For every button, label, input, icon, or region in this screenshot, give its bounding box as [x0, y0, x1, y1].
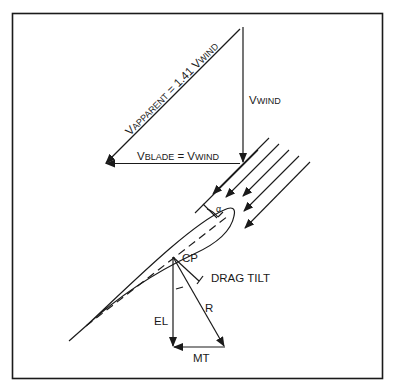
drag-tilt-label: DRAG TILT [211, 272, 270, 284]
v-wind-label: VWIND [249, 94, 281, 106]
v-apparent-label: VAPPARENT = 1.41 VWIND [123, 40, 221, 138]
force-vectors [173, 257, 225, 347]
cp-label: CP [182, 252, 198, 264]
velocity-triangle [106, 27, 243, 164]
v-blade-label: VBLADE = VWIND [137, 150, 219, 162]
mt-label: MT [193, 352, 210, 364]
v-apparent-arrow [106, 29, 240, 163]
trailing-edge-extension [69, 326, 86, 341]
el-label: EL [154, 315, 169, 327]
diagram-canvas: VAPPARENT = 1.41 VWIND VWIND VBLADE = VW… [0, 0, 394, 388]
svg-text:VAPPARENT = 1.41 VWIND: VAPPARENT = 1.41 VWIND [123, 40, 221, 138]
r-arrow [173, 257, 224, 346]
r-label: R [205, 302, 213, 314]
